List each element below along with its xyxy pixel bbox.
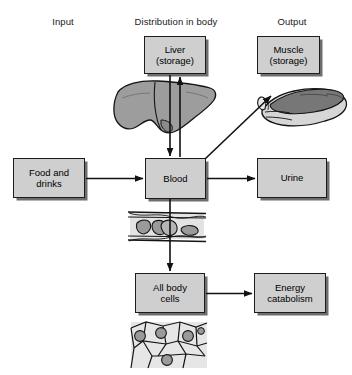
nutrient-distribution-diagram: Input Distribution in body Output	[0, 0, 352, 375]
arrow-blood-to-muscle	[205, 96, 271, 159]
arrows-layer	[0, 0, 352, 375]
